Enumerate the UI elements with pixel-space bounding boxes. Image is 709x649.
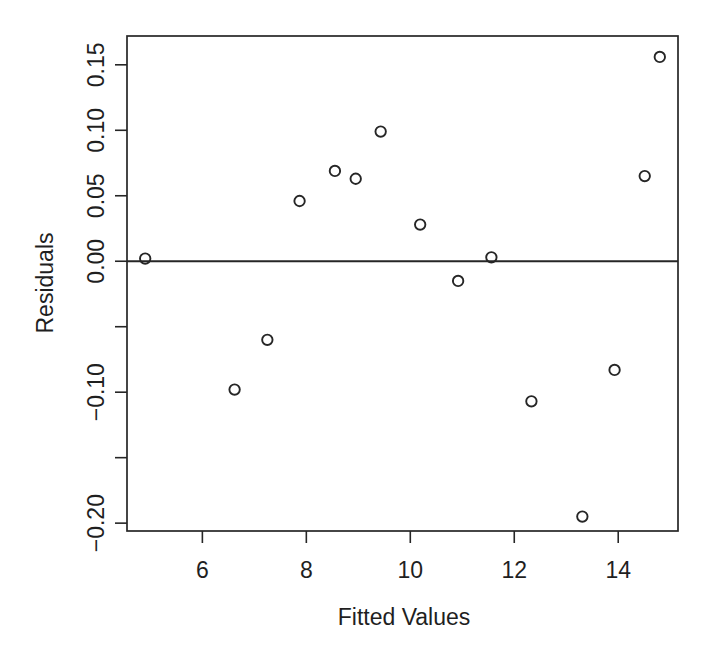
data-point <box>609 365 619 375</box>
y-tick-label: 0.00 <box>83 239 109 284</box>
x-tick-label: 12 <box>501 557 527 583</box>
y-tick-label: −0.10 <box>83 363 109 421</box>
data-point <box>415 219 425 229</box>
data-point <box>262 335 272 345</box>
plot-frame <box>127 36 678 531</box>
x-tick-label: 14 <box>605 557 631 583</box>
y-tick-label: 0.10 <box>83 108 109 153</box>
x-tick-label: 6 <box>196 557 209 583</box>
y-tick-label: 0.05 <box>83 173 109 218</box>
y-tick-label: −0.20 <box>83 494 109 552</box>
data-point <box>294 196 304 206</box>
data-point <box>526 396 536 406</box>
residual-plot-figure: 681012140.150.100.050.00−0.10−0.20 Resid… <box>0 0 709 649</box>
data-point <box>640 171 650 181</box>
data-point <box>351 174 361 184</box>
data-point <box>453 276 463 286</box>
data-point <box>375 126 385 136</box>
x-tick-label: 10 <box>398 557 424 583</box>
data-point <box>229 384 239 394</box>
data-point <box>140 253 150 263</box>
x-axis-title: Fitted Values <box>338 604 471 630</box>
data-point <box>655 52 665 62</box>
data-point <box>577 511 587 521</box>
y-tick-label: 0.15 <box>83 42 109 87</box>
plot-area: 681012140.150.100.050.00−0.10−0.20 <box>83 36 678 583</box>
x-tick-label: 8 <box>300 557 313 583</box>
data-point <box>330 166 340 176</box>
y-axis-title: Residuals <box>32 233 58 334</box>
plot-svg: 681012140.150.100.050.00−0.10−0.20 Resid… <box>0 0 709 649</box>
